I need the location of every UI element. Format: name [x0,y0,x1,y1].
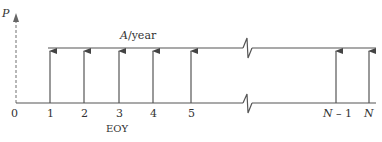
cash-flow-diagram [0,0,382,142]
tick-5: 5 [188,108,195,119]
x-axis-label-eoy: EOY [106,124,128,134]
payment-label: A/year [120,30,156,41]
tick-n: N [364,108,374,119]
present-value-arrowhead [13,13,19,22]
tick-3: 3 [116,108,123,119]
payment-arrows [50,51,369,103]
tick-4: 4 [150,108,157,119]
tick-0: 0 [11,108,18,119]
payment-unit: /year [128,29,156,42]
tick-n-minus-1: N – 1 [323,108,352,119]
tick-2: 2 [81,108,88,119]
annuity-line [48,38,376,58]
time-axis [16,94,376,113]
payment-symbol: A [120,29,128,42]
axis-label-p: P [2,8,9,19]
tick-1: 1 [47,108,54,119]
